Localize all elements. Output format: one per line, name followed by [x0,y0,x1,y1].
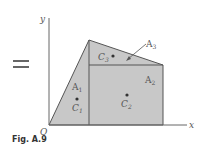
equals-sign [13,60,29,68]
y-axis-label: y [39,14,46,24]
label-a3: A3 [145,39,157,50]
centroid-c1 [75,97,78,100]
x-axis-label: x [189,120,194,130]
composite-area-diagram: y x O A1 C1 A2 C2 A3 C3 [0,0,198,151]
figure-caption: Fig. A.9 [12,135,47,144]
centroid-c3 [111,54,114,57]
centroid-c2 [125,93,128,96]
